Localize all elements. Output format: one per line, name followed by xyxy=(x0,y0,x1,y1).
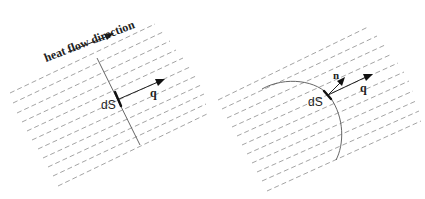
flux-label-q: q xyxy=(150,86,157,100)
normal-label-n: n xyxy=(333,69,339,81)
left-panel: heat flow direction q dS xyxy=(10,17,207,186)
right-panel: n q dS xyxy=(218,27,421,191)
surface-element-label-ds: dS xyxy=(101,98,116,112)
flux-arrow-q xyxy=(119,79,165,99)
flux-label-q: q xyxy=(360,81,367,95)
surface-element-label-ds: dS xyxy=(308,95,323,109)
right-isotherm-lines xyxy=(218,27,421,191)
surface-element-ds xyxy=(324,91,331,99)
heat-flux-diagram: heat flow direction q dS n xyxy=(0,0,425,199)
heat-flow-direction-label: heat flow direction xyxy=(42,17,137,65)
